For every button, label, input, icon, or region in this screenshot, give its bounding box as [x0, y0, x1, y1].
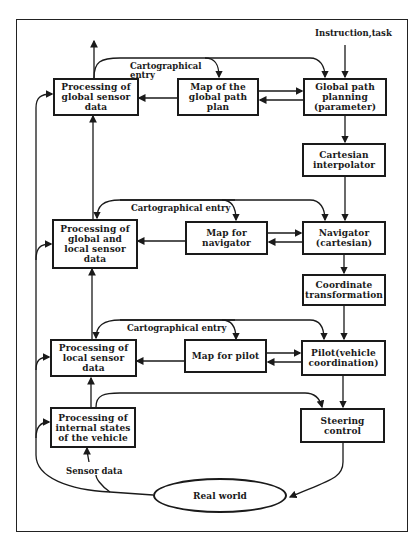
sensor-data-label: Sensor data [66, 467, 123, 476]
box-processing-internal-states: Processing of internal states of the veh… [50, 407, 136, 448]
box-pilot: Pilot(vehicle coordination) [301, 340, 386, 376]
box-map-for-pilot: Map for pilot [184, 339, 267, 373]
input-label: Instruction,task [315, 29, 392, 38]
box-coordinate-transformation: Coordinate transformation [302, 274, 386, 306]
box-steering-control: Steering control [300, 408, 385, 443]
box-global-path-planning: Global path planning (parameter) [303, 78, 387, 116]
box-processing-global-sensor: Processing of global sensor data [53, 78, 139, 116]
box-map-global-path-plan: Map of the global path plan [177, 78, 259, 116]
carto-entry-label-middle: Cartographical entry [131, 204, 230, 213]
box-navigator: Navigator (cartesian) [302, 221, 386, 255]
box-processing-global-local-sensor: Processing of global and local sensor da… [52, 219, 138, 269]
carto-entry-label-bottom: Cartographical entry [127, 324, 226, 333]
real-world-ellipse: Real world [153, 478, 287, 513]
box-processing-local-sensor: Processing of local sensor data [50, 339, 137, 377]
box-cartesian-interpolator: Cartesian interpolator [302, 143, 386, 177]
box-map-for-navigator: Map for navigator [185, 221, 268, 255]
